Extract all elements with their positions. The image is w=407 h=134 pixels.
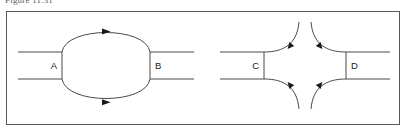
- connector-top-to-c-path: [264, 22, 299, 52]
- node-c[interactable]: C: [220, 52, 264, 79]
- connector-bottom-to-d-path: [311, 79, 346, 109]
- node-d[interactable]: D: [346, 52, 390, 79]
- diagram-canvas: A B C: [0, 0, 407, 134]
- figure-page: Figure 11.31 A B: [0, 0, 407, 134]
- node-c-label: C: [252, 60, 259, 71]
- node-d-label: D: [351, 60, 358, 71]
- connector-bottom-to-c: [264, 79, 299, 109]
- connector-top-to-d-path: [311, 22, 346, 52]
- connector-a-to-b-lower-path: [62, 79, 150, 99]
- left-group: A B: [18, 29, 194, 106]
- node-b-label: B: [155, 60, 161, 71]
- connector-a-to-b-upper: [62, 29, 150, 52]
- right-group: C D: [220, 22, 390, 109]
- connector-bottom-to-c-path: [264, 79, 299, 109]
- node-a-label: A: [51, 60, 58, 71]
- arrowhead-icon: [102, 99, 111, 105]
- connector-a-to-b-lower: [62, 79, 150, 105]
- connector-top-to-d: [311, 22, 346, 52]
- connector-top-to-c: [264, 22, 299, 52]
- arrowhead-icon: [102, 29, 111, 35]
- node-a[interactable]: A: [18, 52, 62, 79]
- connector-a-to-b-upper-path: [62, 33, 150, 53]
- connector-bottom-to-d: [311, 79, 346, 109]
- node-b[interactable]: B: [150, 52, 194, 79]
